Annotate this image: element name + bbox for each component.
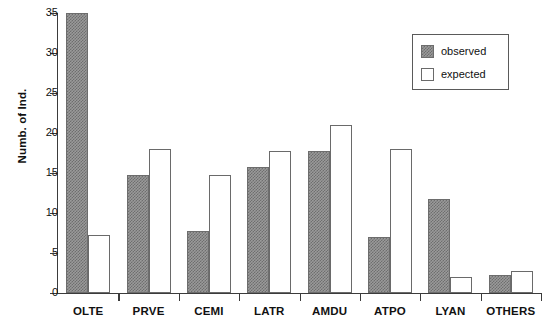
x-label-latr: LATR xyxy=(239,305,299,317)
y-tick-label: 0 xyxy=(12,286,58,298)
legend-entry-expected: expected xyxy=(421,67,486,81)
bar-olte-observed xyxy=(66,13,88,293)
y-tick-label: 15 xyxy=(12,166,58,178)
x-tick-mark xyxy=(118,293,119,301)
x-label-atpo: ATPO xyxy=(360,305,420,317)
legend-label-observed: observed xyxy=(441,45,486,57)
x-tick-mark xyxy=(300,293,301,301)
legend-swatch-expected-icon xyxy=(421,68,434,81)
y-tick-label: 30 xyxy=(12,46,58,58)
x-tick-mark xyxy=(481,293,482,301)
bar-cemi-observed xyxy=(187,231,209,293)
y-tick-label: 5 xyxy=(12,246,58,258)
bar-group xyxy=(58,13,118,293)
bar-olte-expected xyxy=(88,235,110,293)
x-label-others: OTHERS xyxy=(481,305,541,317)
bar-lyan-expected xyxy=(450,277,472,293)
x-tick-mark xyxy=(239,293,240,301)
bar-amdu-observed xyxy=(308,151,330,293)
x-tick-mark xyxy=(420,293,421,301)
y-tick-label: 35 xyxy=(12,6,58,18)
bar-others-observed xyxy=(489,275,511,293)
bar-chart: Numb. of Ind. 05101520253035 OLTEPRVECEM… xyxy=(0,0,559,329)
bar-amdu-expected xyxy=(330,125,352,293)
y-tick-label: 10 xyxy=(12,206,58,218)
legend-swatch-observed-icon xyxy=(421,45,434,58)
bar-group xyxy=(300,13,360,293)
x-tick-mark-end xyxy=(541,293,542,301)
y-tick-label: 20 xyxy=(12,126,58,138)
bar-atpo-expected xyxy=(390,149,412,293)
chart-legend: observed expected xyxy=(412,34,509,90)
x-label-amdu: AMDU xyxy=(300,305,360,317)
legend-label-expected: expected xyxy=(441,68,486,80)
x-label-prve: PRVE xyxy=(118,305,178,317)
x-label-lyan: LYAN xyxy=(420,305,480,317)
x-label-cemi: CEMI xyxy=(179,305,239,317)
bar-latr-expected xyxy=(269,151,291,293)
bar-lyan-observed xyxy=(428,199,450,293)
bar-group xyxy=(179,13,239,293)
bar-others-expected xyxy=(511,271,533,293)
y-tick-label: 25 xyxy=(12,86,58,98)
bar-prve-expected xyxy=(149,149,171,293)
legend-entry-observed: observed xyxy=(421,44,486,58)
bar-cemi-expected xyxy=(209,175,231,293)
bar-atpo-observed xyxy=(368,237,390,293)
bar-latr-observed xyxy=(247,167,269,293)
bar-group xyxy=(239,13,299,293)
bar-group xyxy=(118,13,178,293)
x-tick-mark xyxy=(179,293,180,301)
x-label-olte: OLTE xyxy=(58,305,118,317)
bar-prve-observed xyxy=(127,175,149,293)
x-tick-mark xyxy=(360,293,361,301)
